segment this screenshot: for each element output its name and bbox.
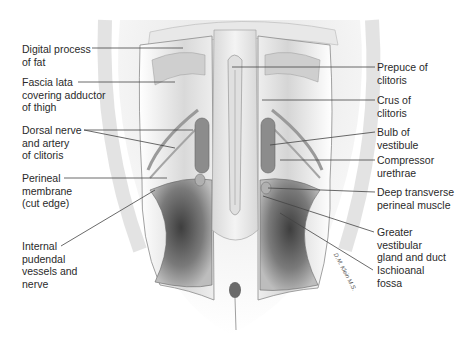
- label-line: Prepuce of: [377, 61, 428, 74]
- label-dorsal-nerve-artery: Dorsal nerve and artery of clitoris: [22, 124, 82, 162]
- central-structures: [212, 30, 258, 240]
- label-line: fossa: [377, 277, 424, 290]
- label-line: clitoris: [377, 74, 428, 87]
- left-dissection: [139, 36, 214, 300]
- label-line: Dorsal nerve: [22, 124, 82, 137]
- label-line: of thigh: [22, 101, 105, 114]
- label-greater-vestibular-gland: Greater vestibular gland and duct: [377, 226, 446, 264]
- label-compressor-urethrae: Compressor urethrae: [377, 154, 434, 179]
- label-internal-pudendal: Internal pudendal vessels and nerve: [22, 240, 77, 290]
- label-line: of clitoris: [22, 149, 82, 162]
- label-line: urethrae: [377, 167, 434, 180]
- label-digital-process-of-fat: Digital process of fat: [22, 43, 91, 68]
- label-line: Compressor: [377, 154, 434, 167]
- label-line: membrane: [22, 185, 72, 198]
- label-crus-of-clitoris: Crus of clitoris: [377, 94, 411, 119]
- label-line: nerve: [22, 278, 77, 291]
- label-perineal-membrane: Perineal membrane (cut edge): [22, 172, 72, 210]
- label-line: Greater: [377, 226, 446, 239]
- label-line: clitoris: [377, 107, 411, 120]
- label-line: vestibular: [377, 239, 446, 252]
- label-line: perineal muscle: [377, 199, 454, 212]
- label-line: of fat: [22, 56, 91, 69]
- label-line: and artery: [22, 137, 82, 150]
- label-line: Ischioanal: [377, 264, 424, 277]
- label-fascia-lata: Fascia lata covering adductor of thigh: [22, 76, 105, 114]
- label-bulb-of-vestibule: Bulb of vestibule: [377, 126, 418, 151]
- label-line: Digital process: [22, 43, 91, 56]
- label-line: Fascia lata: [22, 76, 105, 89]
- label-line: Crus of: [377, 94, 411, 107]
- label-line: vestibule: [377, 139, 418, 152]
- label-line: gland and duct: [377, 251, 446, 264]
- label-line: pudendal: [22, 253, 77, 266]
- label-line: (cut edge): [22, 197, 72, 210]
- label-ischioanal-fossa: Ischioanal fossa: [377, 264, 424, 289]
- label-line: Perineal: [22, 172, 72, 185]
- label-deep-transverse-perineal: Deep transverse perineal muscle: [377, 186, 454, 211]
- label-line: Deep transverse: [377, 186, 454, 199]
- label-prepuce-of-clitoris: Prepuce of clitoris: [377, 61, 428, 86]
- label-line: vessels and: [22, 265, 77, 278]
- label-line: Bulb of: [377, 126, 418, 139]
- right-dissection: [258, 36, 332, 300]
- label-line: covering adductor: [22, 89, 105, 102]
- label-line: Internal: [22, 240, 77, 253]
